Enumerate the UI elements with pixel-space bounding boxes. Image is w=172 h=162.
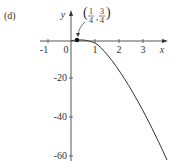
svg-text:1: 1 [89, 7, 93, 16]
svg-text:3: 3 [100, 7, 104, 16]
x-axis-label: x [159, 44, 165, 55]
x-axis-arrow-icon [162, 39, 168, 43]
x-tick-label: -1 [40, 44, 48, 55]
y-axis-label: y [60, 9, 66, 20]
origin-label: 0 [64, 44, 69, 55]
svg-text:4: 4 [89, 16, 93, 25]
x-tick-label: 2 [117, 44, 122, 55]
y-tick-label: -20 [54, 72, 67, 83]
y-tick-label: -40 [54, 111, 67, 122]
annotation-arrow-head-icon [76, 33, 80, 37]
svg-text:,: , [96, 12, 98, 22]
y-tick-label: -60 [54, 150, 67, 161]
function-curve [71, 40, 167, 160]
svg-text:4: 4 [100, 16, 104, 25]
chart: -1 0 1 2 3 x y -20 -40 -60 ( 1 4 , 3 4 ) [0, 0, 172, 162]
x-tick-label: 3 [141, 44, 146, 55]
maximum-point [75, 38, 79, 42]
y-axis-arrow-icon [69, 10, 73, 16]
svg-text:(: ( [83, 5, 88, 21]
point-annotation: ( 1 4 , 3 4 ) [83, 5, 111, 25]
x-tick-label: 1 [93, 44, 98, 55]
svg-text:): ) [106, 5, 111, 21]
